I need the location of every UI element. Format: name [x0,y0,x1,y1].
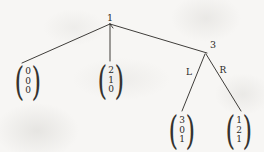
right-paren-icon: ) [186,112,196,149]
right-paren-icon: ) [243,112,253,149]
left-paren-icon: ( [168,112,178,149]
vector-entry: 0 [108,85,114,95]
tree-diagram-canvas: 1 3 L R ( 0 0 0 ) ( 2 1 0 ) ( 3 0 1 ) ( [0,0,264,152]
vector-leaf-b: ( 2 1 0 ) [95,62,128,99]
tree-edge-node3-to-leaf-r [206,54,241,111]
vector-entry: 1 [236,135,242,145]
vector-entry: 0 [25,86,31,96]
right-paren-icon: ) [115,62,125,99]
tree-edge-node3-to-leaf-l [182,54,205,111]
vector-leaf-a: ( 0 0 0 ) [12,63,45,100]
vector-leaf-l: ( 3 0 1 ) [166,112,199,149]
vector-leaf-r: ( 1 2 1 ) [223,112,256,149]
node-label-root: 1 [107,13,113,23]
tree-edge-root-to-node-3 [110,24,207,53]
left-paren-icon: ( [14,63,24,100]
left-paren-icon: ( [97,62,107,99]
node-label-3: 3 [210,40,216,50]
left-paren-icon: ( [225,112,235,149]
vector-entry: 1 [179,135,185,145]
edge-label-left: L [186,68,192,77]
right-paren-icon: ) [32,63,42,100]
edge-label-right: R [220,66,227,75]
